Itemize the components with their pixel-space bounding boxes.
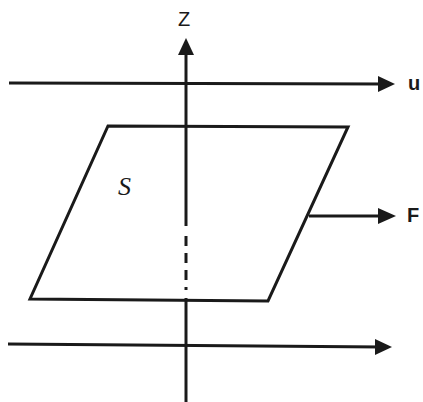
arrowhead-icon	[378, 208, 396, 224]
arrowhead-icon	[375, 339, 392, 355]
flow-label-u: u	[408, 72, 420, 95]
arrowhead-icon	[178, 38, 194, 55]
diagram-canvas	[0, 0, 423, 402]
surface-parallelogram	[30, 126, 348, 301]
flow-arrow-top	[9, 76, 395, 92]
flow-arrow-bottom	[8, 339, 392, 355]
arrowhead-icon	[378, 76, 395, 92]
z-axis-label: Z	[178, 8, 190, 31]
force-label-F: F	[407, 204, 419, 227]
z-axis	[178, 38, 194, 402]
surface-label-S: S	[118, 172, 131, 202]
force-arrow	[309, 208, 396, 224]
